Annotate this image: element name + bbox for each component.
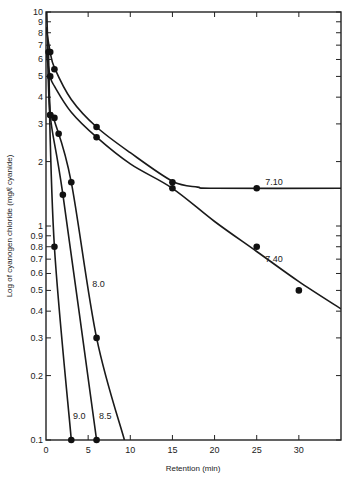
data-point [60,191,67,198]
y-tick-label: 3 [38,119,43,129]
y-tick-label: 0.7 [30,254,43,264]
y-tick-label: 6 [38,54,43,64]
x-tick-label: 20 [210,445,220,455]
series-curve-8-0 [49,52,125,440]
cyanogen-chloride-chart: 051015202530 0.10.20.30.40.50.60.70.80.9… [0,0,344,479]
x-tick-label: 25 [252,445,262,455]
data-point [68,437,75,444]
y-tick-label: 7 [38,40,43,50]
y-tick-label: 0.4 [30,306,43,316]
x-tick-label: 10 [125,445,135,455]
y-tick-label: 10 [33,7,43,17]
x-tick-label: 0 [43,445,48,455]
data-point [93,437,100,444]
data-point [93,335,100,342]
data-point [169,179,176,186]
data-point [93,134,100,141]
plot-frame [46,12,341,440]
data-point [51,66,58,73]
series-labels: 7.107.408.08.59.0 [73,177,283,421]
y-tick-label: 1 [38,221,43,231]
data-point [253,185,260,192]
y-tick-label: 0.3 [30,333,43,343]
y-tick-label: 9 [38,17,43,27]
series-label-9-0: 9.0 [73,411,86,421]
data-point [47,112,54,119]
y-tick-label: 0.9 [30,231,43,241]
y-axis-ticks: 0.10.20.30.40.50.60.70.80.912345678910 [30,7,341,445]
x-axis-ticks: 051015202530 [43,12,303,455]
data-point [93,124,100,131]
data-point [169,185,176,192]
data-point [45,49,52,56]
series-label-7-40: 7.40 [265,254,283,264]
y-tick-label: 0.1 [30,435,43,445]
y-tick-label: 0.5 [30,285,43,295]
data-point [296,287,303,294]
y-tick-label: 5 [38,71,43,81]
y-tick-label: 0.8 [30,242,43,252]
y-tick-label: 8 [38,28,43,38]
y-axis-title: Log of cyanogen chloride (mg/ℓ cyanide) [5,154,14,297]
plot-border [46,12,341,440]
data-point [68,179,75,186]
y-tick-label: 2 [38,157,43,167]
y-tick-label: 0.6 [30,268,43,278]
series-points [45,49,302,444]
x-axis-title: Retention (min) [166,464,221,473]
y-tick-label: 0.2 [30,371,43,381]
x-tick-label: 5 [86,445,91,455]
series-label-7-10: 7.10 [265,177,283,187]
y-tick-label: 4 [38,92,43,102]
series-label-8-5: 8.5 [99,411,112,421]
data-point [253,243,260,250]
data-point [51,243,58,250]
data-point [55,130,62,137]
series-curve-7-10 [46,27,341,188]
data-point [47,73,54,80]
series-curves [46,12,341,440]
series-curve-7-40 [46,52,341,309]
series-curve-8-5 [48,45,97,440]
x-tick-label: 15 [167,445,177,455]
series-label-8-0: 8.0 [92,279,105,289]
x-tick-label: 30 [294,445,304,455]
